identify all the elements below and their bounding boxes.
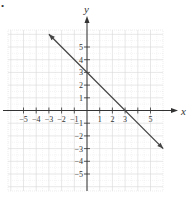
svg-text:3: 3 xyxy=(79,68,83,77)
y-axis-label: y xyxy=(83,3,89,15)
axes xyxy=(3,16,178,191)
svg-text:2: 2 xyxy=(110,115,114,124)
svg-text:−4: −4 xyxy=(32,115,41,124)
svg-text:−1: −1 xyxy=(74,119,83,128)
svg-text:−2: −2 xyxy=(57,115,66,124)
svg-text:−4: −4 xyxy=(74,157,83,166)
x-axis-label: x xyxy=(180,105,186,117)
svg-text:1: 1 xyxy=(79,94,83,103)
svg-text:5: 5 xyxy=(79,43,83,52)
svg-text:−2: −2 xyxy=(74,132,83,141)
svg-text:1: 1 xyxy=(98,115,102,124)
svg-text:−3: −3 xyxy=(45,115,54,124)
svg-text:−5: −5 xyxy=(74,170,83,179)
svg-text:4: 4 xyxy=(79,56,83,65)
coordinate-plane: −5−4−3−2−1123554321−1−2−3−4−5 • x y xyxy=(0,0,194,205)
problem-bullet: • xyxy=(1,1,4,11)
svg-text:2: 2 xyxy=(79,81,83,90)
svg-text:5: 5 xyxy=(149,115,153,124)
svg-text:3: 3 xyxy=(123,115,127,124)
svg-text:−3: −3 xyxy=(74,145,83,154)
svg-text:−5: −5 xyxy=(19,115,28,124)
